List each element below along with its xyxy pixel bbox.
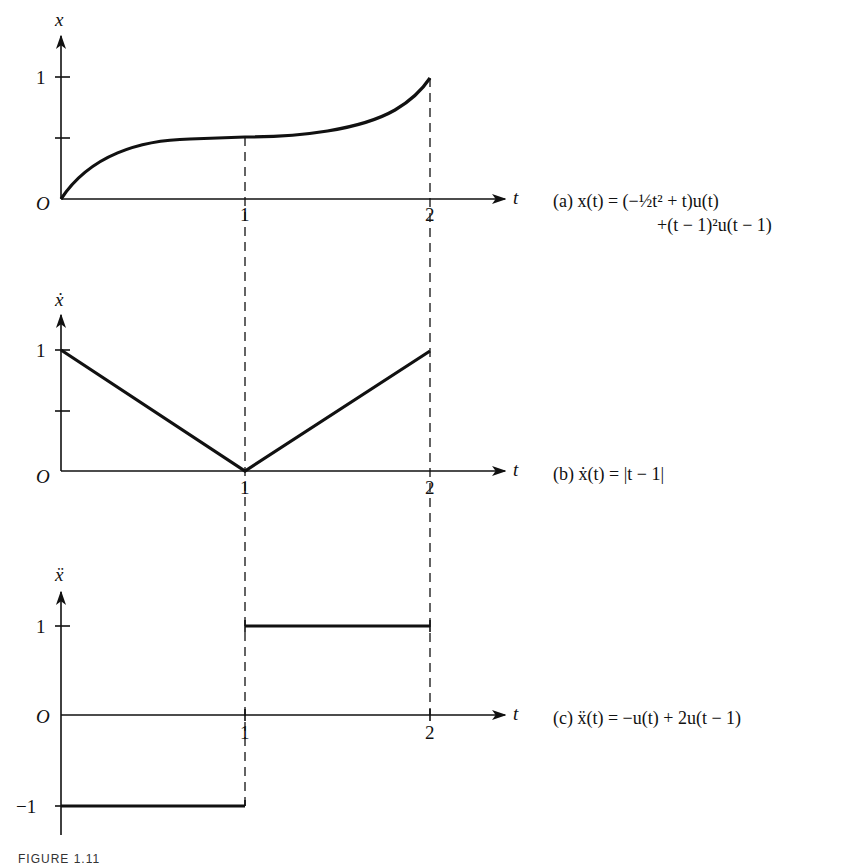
panel-a-y-tick-1: 1: [36, 68, 46, 87]
figure-caption: FIGURE 1.11: [18, 852, 100, 866]
panel-c-origin-label: O: [36, 707, 50, 726]
panel-a-y-axis-label: x: [55, 10, 63, 29]
panel-a-x-tick-1: 1: [240, 205, 250, 224]
panel-b-x-tick-1: 1: [240, 478, 250, 497]
panel-b-origin-label: O: [36, 467, 50, 486]
panel-c-x-tick-1: 1: [240, 723, 250, 742]
panel-b-y-tick-1: 1: [36, 341, 46, 360]
panel-a-x-tick-2: 2: [425, 205, 435, 224]
panel-c-y-axis-label: ẍ: [55, 565, 63, 584]
panel-c-y-tick-neg1: −1: [16, 797, 36, 816]
panel-a-axes: [55, 36, 505, 199]
panel-a-formula-line2: +(t − 1)²u(t − 1): [657, 214, 772, 237]
guide-lines: [245, 78, 430, 806]
panel-a-formula-line1: (a) x(t) = (−½t² + t)u(t): [553, 190, 719, 213]
panel-b-x-tick-2: 2: [425, 478, 435, 497]
panel-c-formula: (c) ẍ(t) = −u(t) + 2u(t − 1): [553, 707, 741, 730]
panel-c-axes: [55, 592, 505, 835]
panel-b-t-axis-label: t: [513, 460, 518, 479]
panel-c-x-tick-2: 2: [425, 723, 435, 742]
panel-b-formula: (b) ẋ(t) = |t − 1|: [553, 463, 664, 486]
panel-c-t-axis-label: t: [513, 704, 518, 723]
panel-a-curve: [61, 78, 430, 199]
panel-a-origin-label: O: [36, 194, 50, 213]
panel-c-y-tick-1: 1: [36, 617, 46, 636]
panel-a-t-axis-label: t: [513, 188, 518, 207]
panel-b-y-axis-label: ẋ: [55, 290, 63, 309]
